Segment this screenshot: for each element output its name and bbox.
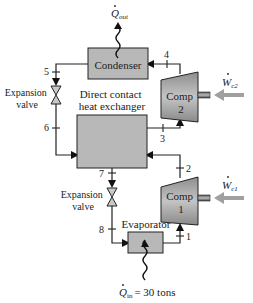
q-in-label: Qin= 30 tons bbox=[119, 286, 175, 300]
work-c1-label: Wc1 bbox=[222, 179, 238, 193]
state-3: 3 bbox=[160, 133, 165, 144]
expansion-valve-lower-label: Expansion valve bbox=[61, 189, 106, 212]
expansion-valve-upper-icon bbox=[51, 86, 61, 104]
q-out-label: Qout bbox=[111, 7, 129, 21]
work-c2-arrow-icon bbox=[214, 89, 244, 101]
state-5: 5 bbox=[44, 66, 49, 77]
expansion-valve-upper-label: Expansion valve bbox=[5, 87, 50, 110]
work-c2-label: Wc2 bbox=[222, 76, 238, 90]
state-4: 4 bbox=[164, 49, 169, 60]
condenser-label: Condenser bbox=[94, 59, 141, 71]
state-2: 2 bbox=[186, 163, 191, 174]
compressor-2-shaft bbox=[198, 92, 210, 98]
expansion-valve-lower-icon bbox=[107, 188, 117, 206]
state-8: 8 bbox=[99, 224, 104, 235]
heat-exchanger-box bbox=[77, 115, 147, 168]
compressor-1-shaft bbox=[198, 195, 210, 201]
state-7: 7 bbox=[99, 168, 104, 179]
work-c1-arrow-icon bbox=[214, 192, 244, 204]
heat-exchanger-label: Direct contact heat exchanger bbox=[79, 88, 146, 112]
state-1: 1 bbox=[186, 231, 191, 242]
state-6: 6 bbox=[44, 122, 49, 133]
refrigeration-cycle-diagram: 4 5 6 3 2 7 8 1 Condenser Qout Expansion… bbox=[0, 0, 253, 303]
evaporator-label: Evaporator bbox=[122, 218, 171, 230]
